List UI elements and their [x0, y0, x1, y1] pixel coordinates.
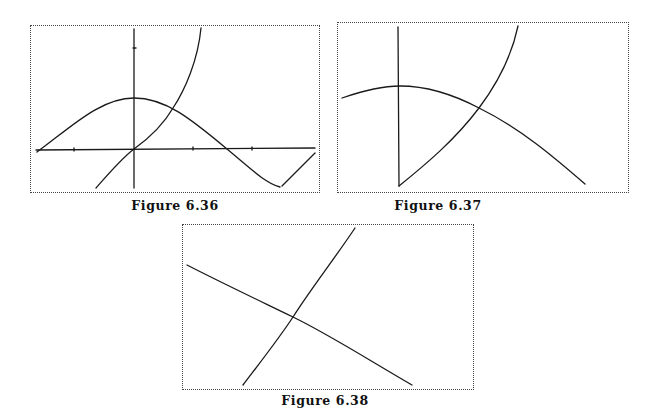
decreasing-line — [187, 265, 412, 385]
figure-6-38-plot — [0, 0, 651, 411]
increasing-line — [243, 228, 355, 385]
figure-6-38-caption: Figure 6.38 — [281, 393, 368, 408]
